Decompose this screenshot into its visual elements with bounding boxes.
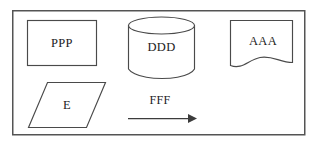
node-document-shape[interactable]: AAA [231, 21, 293, 67]
parallelogram-label: E [63, 98, 71, 112]
diagram-canvas: PPP DDD AAA E FFF [0, 0, 318, 144]
node-database-cylinder[interactable]: DDD [129, 17, 195, 79]
document-shape-label: AAA [249, 34, 277, 48]
connector-flow-arrow[interactable]: FFF [128, 93, 197, 123]
diagram-svg: PPP DDD AAA E FFF [0, 0, 318, 144]
database-cylinder-top-ellipse [129, 17, 195, 34]
database-cylinder-label: DDD [148, 40, 176, 54]
process-rectangle-label: PPP [51, 36, 73, 50]
node-input-output-parallelogram[interactable]: E [29, 83, 106, 128]
flow-arrow-label: FFF [150, 93, 171, 107]
node-process-rectangle[interactable]: PPP [28, 21, 97, 66]
flow-arrow-head-icon [188, 114, 197, 123]
